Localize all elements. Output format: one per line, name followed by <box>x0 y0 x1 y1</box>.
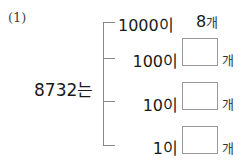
unit-label: 개 <box>206 15 218 30</box>
answer-box-tens[interactable] <box>182 82 218 110</box>
unit-label-tens: 개 <box>222 94 234 113</box>
place-label-ones: 1이 <box>108 135 178 159</box>
place-label-tens: 10이 <box>108 92 178 116</box>
answer-thousands: 8개 <box>196 12 218 31</box>
place-label-hundreds: 100이 <box>108 48 178 72</box>
number-label: 8732는 <box>34 76 93 101</box>
answer-box-hundreds[interactable] <box>182 38 218 66</box>
place-label-thousands: 1000이 <box>50 12 178 36</box>
bracket-vertical-line <box>103 22 104 146</box>
answer-box-ones[interactable] <box>182 126 218 154</box>
answer-value: 8 <box>196 12 206 31</box>
unit-label-hundreds: 개 <box>222 50 234 69</box>
question-number: (1) <box>8 10 26 25</box>
unit-label-ones: 개 <box>222 138 234 157</box>
